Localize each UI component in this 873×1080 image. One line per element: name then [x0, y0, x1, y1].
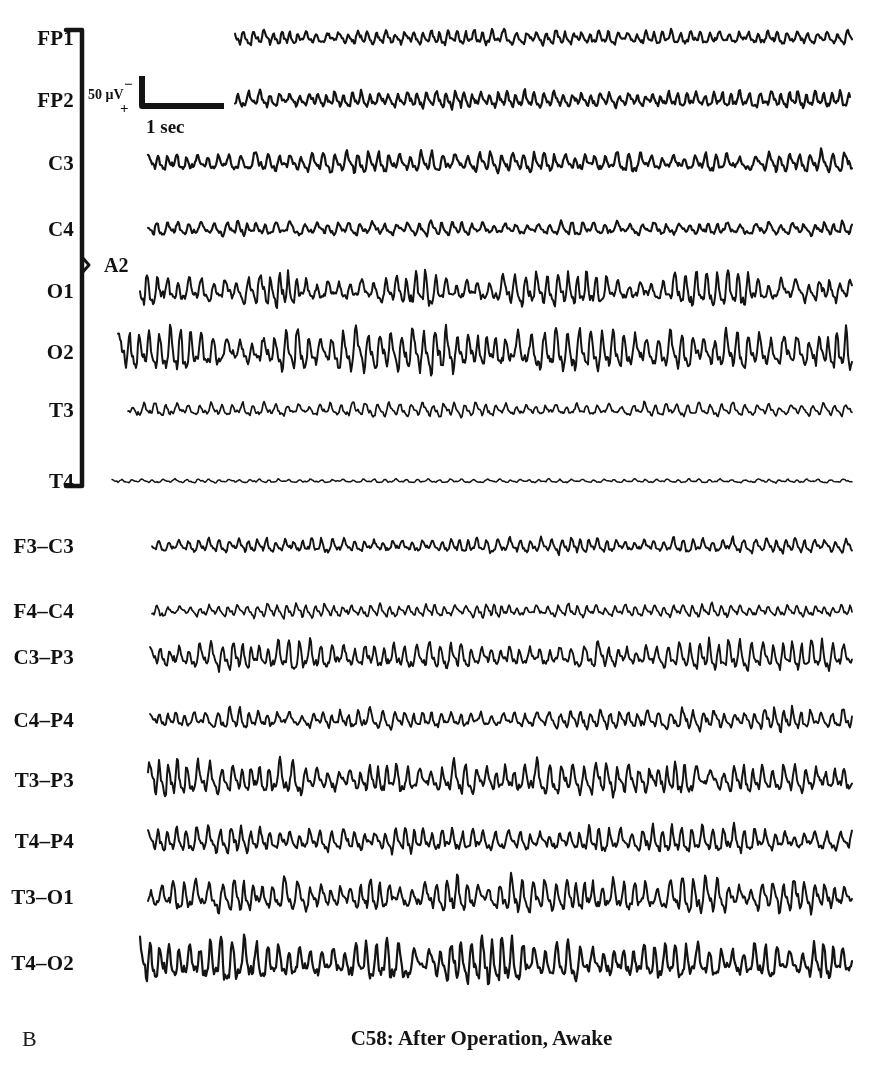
calibration-positive-polarity-icon: + — [120, 101, 129, 116]
eeg-traces-canvas — [0, 0, 873, 1080]
channel-label-t3: T3 — [0, 400, 74, 421]
calibration-time-label: 1 sec — [146, 117, 185, 136]
channel-label-f3c3: F3–C3 — [0, 536, 74, 557]
figure-caption: C58: After Operation, Awake — [0, 1028, 873, 1049]
channel-label-c3p3: C3–P3 — [0, 647, 74, 668]
channel-label-t4o2: T4–O2 — [0, 953, 74, 974]
channel-label-f4c4: F4–C4 — [0, 601, 74, 622]
channel-label-fp2: FP2 — [0, 90, 74, 111]
channel-label-t4p4: T4–P4 — [0, 831, 74, 852]
channel-label-o2: O2 — [0, 342, 74, 363]
reference-label: A2 — [104, 255, 128, 275]
channel-label-t4: T4 — [0, 471, 74, 492]
channel-label-c4p4: C4–P4 — [0, 710, 74, 731]
channel-label-o1: O1 — [0, 281, 74, 302]
channel-label-c4: C4 — [0, 219, 74, 240]
eeg-figure: FP1FP2C3C4O1O2T3T4F3–C3F4–C4C3–P3C4–P4T3… — [0, 0, 873, 1080]
channel-label-c3: C3 — [0, 153, 74, 174]
calibration-amplitude-label: 50 μV — [88, 88, 124, 102]
calibration-negative-polarity-icon: − — [124, 77, 133, 92]
channel-label-t3o1: T3–O1 — [0, 887, 74, 908]
channel-label-t3p3: T3–P3 — [0, 770, 74, 791]
channel-label-fp1: FP1 — [0, 28, 74, 49]
